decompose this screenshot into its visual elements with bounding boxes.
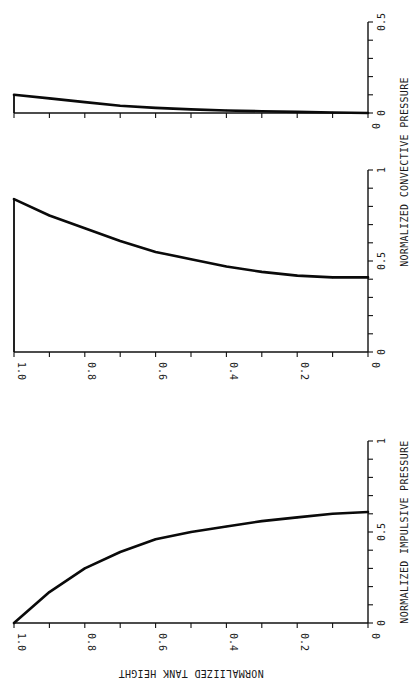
data-point bbox=[296, 517, 298, 519]
data-point bbox=[155, 251, 157, 253]
data-point bbox=[261, 520, 263, 522]
tank-height-axis-label: NORMALIIZED TANK HEIGHT bbox=[118, 668, 263, 679]
data-point bbox=[226, 110, 228, 112]
data-point bbox=[226, 526, 228, 528]
data-point bbox=[155, 538, 157, 540]
data-point bbox=[119, 551, 121, 553]
data-point bbox=[332, 277, 334, 279]
data-point bbox=[119, 105, 121, 107]
impulsive-pressure-axis-label: NORMALIZED IMPULSIVE PRESSURE bbox=[399, 440, 410, 623]
data-point bbox=[49, 98, 51, 100]
height-tick-label: 0.2 bbox=[299, 362, 310, 380]
data-point bbox=[296, 275, 298, 277]
series-line-impulsive bbox=[14, 512, 368, 623]
data-point bbox=[84, 227, 86, 229]
pressure-tick-label: 0.5 bbox=[376, 252, 387, 270]
height-tick-label: 0.6 bbox=[157, 633, 168, 651]
height-tick-label: 0.4 bbox=[228, 633, 239, 651]
data-point bbox=[226, 266, 228, 268]
height-tick-label: 0.8 bbox=[86, 362, 97, 380]
data-point bbox=[84, 101, 86, 103]
height-tick-label: 0 bbox=[370, 633, 381, 639]
pressure-tick-label: 0 bbox=[376, 620, 387, 626]
data-point bbox=[190, 531, 192, 533]
panels-group: 1.00.80.60.40.2000.511.00.80.60.40.2000.… bbox=[13, 13, 387, 651]
pressure-tick-label: 1 bbox=[376, 438, 387, 444]
height-tick-label: 0 bbox=[370, 362, 381, 368]
rotated-pressure-chart: 1.00.80.60.40.2000.511.00.80.60.40.2000.… bbox=[0, 0, 419, 689]
pressure-tick-label: 1 bbox=[376, 167, 387, 173]
data-point bbox=[367, 112, 369, 114]
panel-impulsive: 1.00.80.60.40.2000.51 bbox=[13, 438, 387, 651]
data-point bbox=[367, 277, 369, 279]
pressure-tick-label: 0 bbox=[376, 349, 387, 355]
height-tick-label: 0.4 bbox=[228, 362, 239, 380]
data-point bbox=[155, 107, 157, 109]
panel-convective-mode2: 000.5 bbox=[13, 13, 387, 129]
data-point bbox=[261, 110, 263, 112]
pressure-tick-label: 0 bbox=[376, 110, 387, 116]
pressure-tick-label: 0.5 bbox=[376, 13, 387, 31]
height-tick-label: 1.0 bbox=[16, 633, 27, 651]
pressure-tick-label: 0.5 bbox=[376, 523, 387, 541]
data-point bbox=[332, 112, 334, 114]
panel-convective: 1.00.80.60.40.2000.51 bbox=[13, 167, 387, 380]
data-point bbox=[13, 622, 15, 624]
data-point bbox=[367, 511, 369, 513]
height-tick-label: 0.6 bbox=[157, 362, 168, 380]
series-line-convective bbox=[14, 199, 368, 277]
data-point bbox=[261, 271, 263, 273]
data-point bbox=[49, 591, 51, 593]
height-tick-label: 1.0 bbox=[16, 362, 27, 380]
data-point bbox=[119, 240, 121, 242]
data-point bbox=[13, 94, 15, 96]
data-point bbox=[13, 198, 15, 200]
data-point bbox=[49, 215, 51, 217]
height-tick-label: 0 bbox=[370, 123, 381, 129]
data-point bbox=[190, 109, 192, 111]
series-line-convective-mode2 bbox=[14, 95, 368, 113]
data-point bbox=[332, 513, 334, 515]
height-tick-label: 0.2 bbox=[299, 633, 310, 651]
convective-pressure-axis-label: NORMALIZED CONVECTIVE PRESSURE bbox=[399, 77, 410, 267]
data-point bbox=[296, 111, 298, 113]
height-tick-label: 0.8 bbox=[86, 633, 97, 651]
data-point bbox=[84, 568, 86, 570]
data-point bbox=[190, 258, 192, 260]
